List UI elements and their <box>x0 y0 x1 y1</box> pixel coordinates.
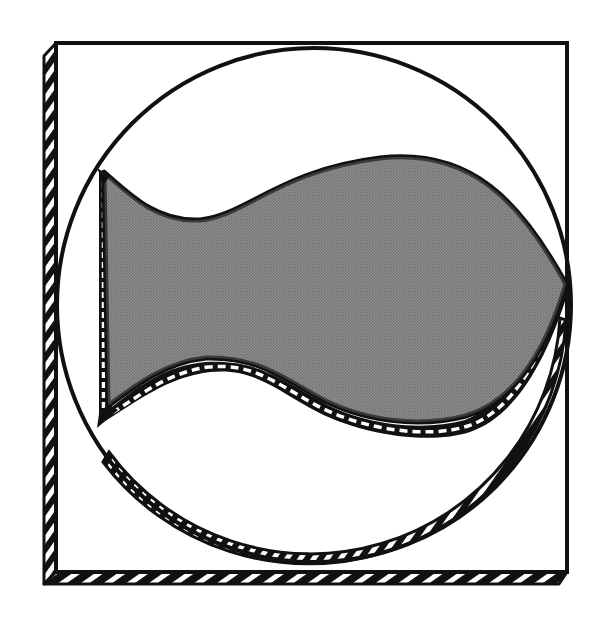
diagram-figure <box>0 0 606 619</box>
fish-body-grain <box>104 157 566 422</box>
fish-shape <box>97 157 568 438</box>
